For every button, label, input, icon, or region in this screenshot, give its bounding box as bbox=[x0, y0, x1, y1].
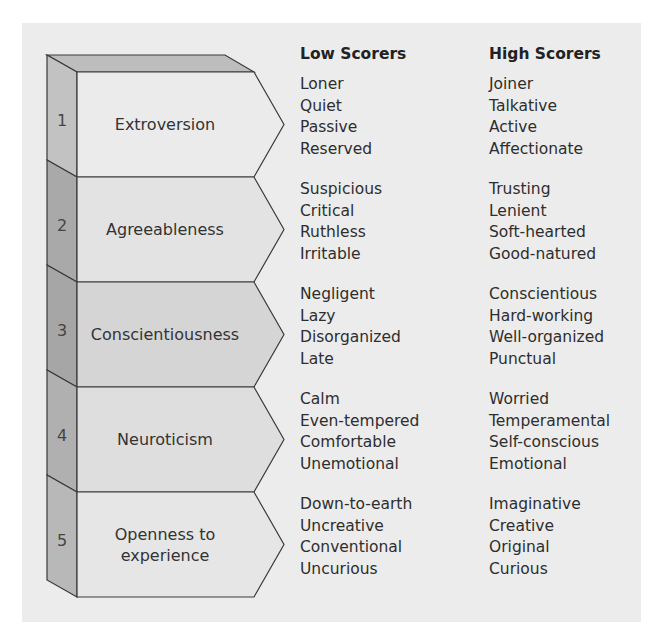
trait-label-line: Openness to bbox=[78, 524, 252, 545]
trait-number: 5 bbox=[47, 531, 77, 550]
high-scorer-list-2: TrustingLenientSoft-heartedGood-natured bbox=[489, 179, 596, 265]
high-scorer-word: Self-conscious bbox=[489, 432, 610, 454]
low-scorer-word: Down-to-earth bbox=[300, 494, 412, 516]
high-scorer-word: Conscientious bbox=[489, 284, 604, 306]
low-scorer-word: Critical bbox=[300, 201, 382, 223]
low-scorer-word: Suspicious bbox=[300, 179, 382, 201]
trait-label: Extroversion bbox=[78, 114, 252, 135]
high-scorer-word: Punctual bbox=[489, 349, 604, 371]
high-scorer-word: Joiner bbox=[489, 74, 583, 96]
low-scorer-word: Calm bbox=[300, 389, 419, 411]
trait-label-line: experience bbox=[78, 545, 252, 566]
high-scorer-word: Soft-hearted bbox=[489, 222, 596, 244]
high-scorer-word: Lenient bbox=[489, 201, 596, 223]
high-scorer-word: Imaginative bbox=[489, 494, 581, 516]
high-scorer-word: Well-organized bbox=[489, 327, 604, 349]
column-header-low: Low Scorers bbox=[300, 45, 406, 63]
low-scorer-word: Lazy bbox=[300, 306, 401, 328]
low-scorer-word: Conventional bbox=[300, 537, 412, 559]
high-scorer-word: Creative bbox=[489, 516, 581, 538]
low-scorer-word: Reserved bbox=[300, 139, 372, 161]
low-scorer-list-1: LonerQuietPassiveReserved bbox=[300, 74, 372, 160]
low-scorer-word: Uncreative bbox=[300, 516, 412, 538]
trait-label: Openness toexperience bbox=[78, 524, 252, 566]
high-scorer-word: Curious bbox=[489, 559, 581, 581]
low-scorer-word: Unemotional bbox=[300, 454, 419, 476]
low-scorer-word: Comfortable bbox=[300, 432, 419, 454]
low-scorer-word: Even-tempered bbox=[300, 411, 419, 433]
low-scorer-list-5: Down-to-earthUncreativeConventionalUncur… bbox=[300, 494, 412, 580]
trait-number: 3 bbox=[47, 321, 77, 340]
trait-label: Conscientiousness bbox=[78, 324, 252, 345]
high-scorer-word: Good-natured bbox=[489, 244, 596, 266]
high-scorer-word: Temperamental bbox=[489, 411, 610, 433]
low-scorer-list-3: NegligentLazyDisorganizedLate bbox=[300, 284, 401, 370]
high-scorer-word: Hard-working bbox=[489, 306, 604, 328]
high-scorer-list-3: ConscientiousHard-workingWell-organizedP… bbox=[489, 284, 604, 370]
low-scorer-word: Uncurious bbox=[300, 559, 412, 581]
high-scorer-word: Trusting bbox=[489, 179, 596, 201]
high-scorer-word: Emotional bbox=[489, 454, 610, 476]
high-scorer-word: Active bbox=[489, 117, 583, 139]
trait-number: 1 bbox=[47, 111, 77, 130]
low-scorer-word: Irritable bbox=[300, 244, 382, 266]
trait-number: 4 bbox=[47, 426, 77, 445]
column-header-high: High Scorers bbox=[489, 45, 601, 63]
low-scorer-word: Passive bbox=[300, 117, 372, 139]
stack-top-cap bbox=[47, 55, 254, 72]
low-scorer-list-4: CalmEven-temperedComfortableUnemotional bbox=[300, 389, 419, 475]
high-scorer-word: Worried bbox=[489, 389, 610, 411]
high-scorer-word: Affectionate bbox=[489, 139, 583, 161]
trait-label: Agreeableness bbox=[78, 219, 252, 240]
trait-label: Neuroticism bbox=[78, 429, 252, 450]
high-scorer-list-5: ImaginativeCreativeOriginalCurious bbox=[489, 494, 581, 580]
low-scorer-word: Disorganized bbox=[300, 327, 401, 349]
high-scorer-word: Talkative bbox=[489, 96, 583, 118]
high-scorer-word: Original bbox=[489, 537, 581, 559]
low-scorer-word: Ruthless bbox=[300, 222, 382, 244]
trait-number: 2 bbox=[47, 216, 77, 235]
low-scorer-list-2: SuspiciousCriticalRuthlessIrritable bbox=[300, 179, 382, 265]
low-scorer-word: Loner bbox=[300, 74, 372, 96]
low-scorer-word: Late bbox=[300, 349, 401, 371]
high-scorer-list-1: JoinerTalkativeActiveAffectionate bbox=[489, 74, 583, 160]
high-scorer-list-4: WorriedTemperamentalSelf-consciousEmotio… bbox=[489, 389, 610, 475]
low-scorer-word: Quiet bbox=[300, 96, 372, 118]
low-scorer-word: Negligent bbox=[300, 284, 401, 306]
